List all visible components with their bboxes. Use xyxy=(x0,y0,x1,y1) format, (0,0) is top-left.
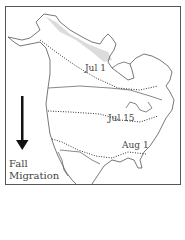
isoline-label-jul1: Jul 1 xyxy=(85,64,106,73)
arrow-down-icon xyxy=(16,96,29,150)
isoline-label-aug1: Aug 1 xyxy=(122,141,149,150)
legend-line-1: Fall xyxy=(9,158,59,170)
fall-migration-label: Fall Migration xyxy=(9,158,59,182)
legend-line-2: Migration xyxy=(9,170,59,182)
isoline-label-jul15: Jul 15 xyxy=(108,114,135,123)
